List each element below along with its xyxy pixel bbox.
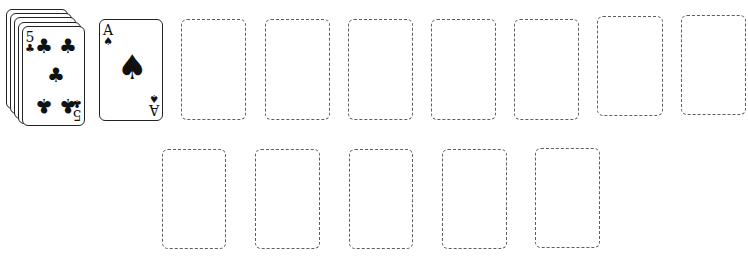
foundation-slot-6[interactable] bbox=[597, 16, 663, 116]
tableau-slot-5[interactable] bbox=[535, 148, 600, 248]
club-icon: ♣ bbox=[72, 98, 82, 109]
club-icon: ♣ bbox=[35, 36, 53, 56]
club-icon: ♣ bbox=[59, 36, 77, 56]
foundation-slot-7[interactable] bbox=[681, 15, 746, 115]
card-index-top: 5 ♣ bbox=[25, 30, 35, 54]
card-rank: A bbox=[149, 103, 159, 117]
club-icon: ♣ bbox=[47, 65, 65, 85]
waste-top-card[interactable]: A ♠ ♠ A ♠ bbox=[99, 19, 163, 121]
tableau-slot-4[interactable] bbox=[442, 149, 507, 249]
stock-top-card[interactable]: 5 ♣ ♣ ♣ ♣ ♣ ♣ 5 ♣ bbox=[22, 26, 85, 126]
card-index-bottom: A ♠ bbox=[149, 93, 159, 117]
spade-icon: ♠ bbox=[117, 50, 147, 84]
foundation-slot-5[interactable] bbox=[514, 19, 579, 120]
club-icon: ♣ bbox=[25, 43, 35, 54]
spade-icon: ♠ bbox=[103, 36, 113, 47]
foundation-slot-2[interactable] bbox=[265, 19, 330, 120]
stock-pile[interactable]: 5 ♣ ♣ ♣ ♣ ♣ ♣ 5 ♣ bbox=[0, 0, 90, 130]
tableau-slot-3[interactable] bbox=[349, 149, 413, 249]
card-index-bottom: 5 ♣ bbox=[72, 98, 82, 122]
foundation-slot-1[interactable] bbox=[181, 19, 246, 120]
club-icon: ♣ bbox=[35, 96, 53, 116]
card-rank: 5 bbox=[72, 108, 82, 122]
spade-icon: ♠ bbox=[149, 93, 159, 104]
foundation-slot-4[interactable] bbox=[431, 19, 496, 120]
tableau-slot-1[interactable] bbox=[162, 149, 226, 249]
foundation-slot-3[interactable] bbox=[348, 19, 413, 120]
tableau-slot-2[interactable] bbox=[255, 149, 320, 249]
card-index-top: A ♠ bbox=[103, 23, 113, 47]
